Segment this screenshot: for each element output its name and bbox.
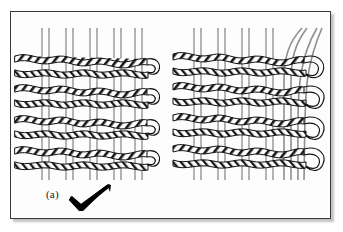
panel-b: (b) xyxy=(171,12,331,218)
selvedge-loops-b xyxy=(304,56,324,170)
panel-a-caption: (a) xyxy=(46,188,59,200)
weft-yarns-a xyxy=(15,55,148,171)
figure-frame: (a) xyxy=(10,11,331,219)
weave-illustration-b xyxy=(171,12,331,218)
check-mark-icon xyxy=(67,182,117,216)
selvedge-loops-a xyxy=(147,59,160,167)
weft-yarns-b xyxy=(173,53,306,169)
panel-a: (a) xyxy=(11,12,171,218)
figure-root: (a) xyxy=(0,0,343,232)
